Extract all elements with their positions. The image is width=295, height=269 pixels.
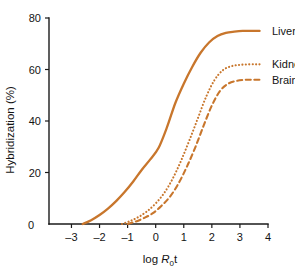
x-tick-label--2: –2 [93, 231, 105, 243]
y-tick-label-20: 20 [29, 167, 41, 179]
y-tick-label-40: 40 [29, 115, 41, 127]
curve-kidney [122, 64, 262, 224]
x-tick-label-3: 3 [237, 231, 243, 243]
x-tick-label-0: 0 [153, 231, 159, 243]
x-tick-label-2: 2 [209, 231, 215, 243]
x-tick-label--1: –1 [121, 231, 133, 243]
curve-brain [128, 80, 263, 224]
hybridization-chart-figure: 20406080 –3–2–101234 0 Hybridization (%)… [0, 0, 295, 269]
legend-label-kidney: Kidney [272, 58, 295, 70]
chart-canvas: 20406080 –3–2–101234 0 Hybridization (%)… [0, 0, 295, 269]
data-curves-group [83, 31, 263, 224]
x-axis-title: log R0t [143, 253, 178, 268]
axes-group [49, 18, 268, 224]
x-tick-label-1: 1 [181, 231, 187, 243]
legend-label-liver: Liver [272, 25, 295, 37]
y-tick-label-60: 60 [29, 64, 41, 76]
x-axis-title-lead: log [143, 253, 162, 265]
y-tick-label-80: 80 [29, 12, 41, 24]
y-axis-tick-labels: 20406080 [29, 12, 41, 179]
legend-label-brain: Brain [272, 74, 295, 86]
x-axis-tick-labels: –3–2–101234 [65, 231, 271, 243]
origin-tick-label: 0 [28, 219, 34, 231]
legend-group: LiverKidneyBrain [272, 25, 295, 86]
x-tick-label--3: –3 [65, 231, 77, 243]
y-axis-title: Hybridization (%) [4, 86, 16, 174]
x-axis-title-italic: R [161, 253, 169, 265]
x-axis-title-trail: t [174, 253, 178, 265]
x-tick-label-4: 4 [265, 231, 271, 243]
